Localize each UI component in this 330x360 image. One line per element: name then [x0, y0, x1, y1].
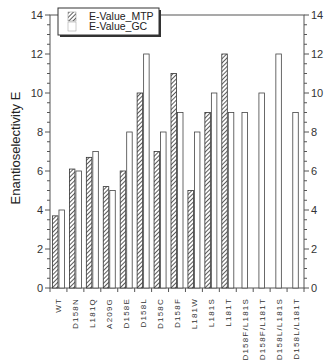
y-tick-label: 14	[31, 9, 43, 21]
legend-label: E-Value_GC	[89, 20, 148, 32]
bars	[52, 54, 298, 288]
x-axis-labels: WTD158NL181QA209GD158ED158LD158CD158FL18…	[50, 288, 304, 360]
y-axis-right: 02468101214	[304, 9, 323, 294]
x-tick-label: D158L	[139, 298, 148, 328]
y-tick-label: 10	[311, 87, 323, 99]
bar-gc	[144, 54, 150, 288]
y-tick-label: 2	[311, 243, 317, 255]
x-tick-label: L181W	[190, 298, 199, 329]
bar-mtp	[69, 169, 75, 288]
y-tick-label: 6	[311, 165, 317, 177]
y-tick-label: 6	[37, 165, 43, 177]
x-tick-label: L181Q	[88, 298, 97, 328]
x-tick-label: L181T	[224, 298, 233, 327]
bar-gc	[242, 113, 248, 289]
bar-mtp	[120, 171, 126, 288]
bar-gc	[76, 171, 82, 288]
y-tick-label: 12	[31, 48, 43, 60]
bar-mtp	[154, 152, 160, 289]
bar-gc	[59, 210, 65, 288]
bar-mtp	[205, 113, 211, 289]
bar-mtp	[86, 157, 92, 288]
y-tick-label: 10	[31, 87, 43, 99]
x-tick-label: L181S	[207, 298, 216, 327]
bar-gc	[211, 93, 217, 288]
x-tick-label: D158E	[122, 298, 131, 328]
bar-gc	[259, 93, 265, 288]
bar-gc	[228, 113, 234, 289]
bar-gc	[127, 132, 133, 288]
y-tick-label: 2	[37, 243, 43, 255]
x-tick-label: D158F	[173, 298, 182, 328]
y-tick-label: 0	[311, 282, 317, 294]
bar-gc	[194, 132, 200, 288]
bar-mtp	[137, 93, 143, 288]
x-tick-label: WT	[54, 298, 63, 313]
bar-gc	[178, 113, 184, 289]
bar-gc	[293, 113, 299, 289]
bar-gc	[110, 191, 116, 289]
y-tick-label: 8	[37, 126, 43, 138]
y-tick-label: 12	[311, 48, 323, 60]
y-tick-label: 14	[311, 9, 323, 21]
bar-chart: 02468101214 02468101214 WTD158NL181QA209…	[0, 0, 330, 360]
x-tick-label: A209G	[105, 298, 114, 329]
x-tick-label: D158L/L181S	[275, 298, 284, 360]
y-tick-label: 4	[37, 204, 43, 216]
y-axis-left: 02468101214	[31, 9, 50, 294]
bar-mtp	[103, 187, 109, 288]
y-tick-label: 0	[37, 282, 43, 294]
x-tick-label: D158C	[156, 298, 165, 329]
y-tick-label: 8	[311, 126, 317, 138]
legend: E-Value_MTPE-Value_GC	[58, 8, 161, 37]
y-tick-label: 4	[311, 204, 317, 216]
x-tick-label: D158F/L181S	[241, 298, 250, 360]
bar-gc	[93, 152, 99, 289]
bar-mtp	[52, 216, 58, 288]
bar-gc	[276, 54, 282, 288]
x-tick-label: D158F/L181T	[258, 298, 267, 360]
x-tick-label: D158L/L181T	[292, 298, 301, 360]
bar-mtp	[171, 74, 177, 289]
bar-mtp	[188, 191, 194, 289]
bar-mtp	[222, 54, 228, 288]
bar-gc	[161, 132, 167, 288]
x-tick-label: D158N	[71, 298, 80, 329]
